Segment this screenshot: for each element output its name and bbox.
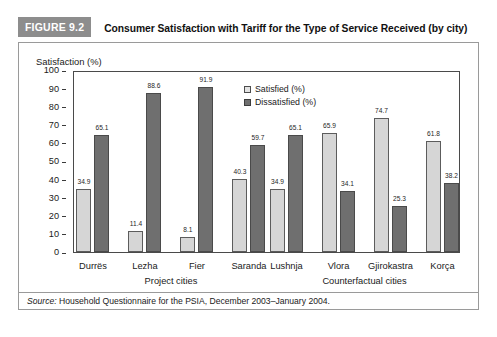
source-label: Source: — [27, 296, 57, 306]
bar-value-label: 59.7 — [252, 135, 265, 142]
bar-value-label: 25.3 — [393, 196, 406, 203]
x-axis-label: Lushnja — [270, 262, 303, 271]
bar-value-label: 34.9 — [78, 179, 91, 186]
bar-value-label: 91.9 — [200, 77, 213, 84]
bar-pair: 74.725.3 — [374, 72, 407, 252]
bar-pair: 8.191.9 — [180, 72, 213, 252]
x-axis-label: Durrës — [79, 262, 107, 271]
y-axis-tick: 50 — [49, 157, 66, 167]
x-axis-group-captions: Project citiesCounterfactual cities — [73, 277, 460, 291]
y-axis: 0102030405060708090100 — [38, 71, 66, 253]
y-axis-tick-label: 100 — [44, 66, 59, 75]
bar-dissatisfied: 65.1 — [288, 135, 303, 252]
y-axis-tick: 30 — [49, 193, 66, 203]
x-axis-label: Korça — [430, 262, 454, 271]
bar-value-label: 40.3 — [234, 169, 247, 176]
bar-value-label: 61.8 — [427, 131, 440, 138]
legend-item-dissatisfied: Dissatisfied (%) — [244, 96, 316, 108]
bar-pair: 34.965.1 — [76, 72, 109, 252]
y-axis-tick-mark-icon — [62, 71, 66, 72]
y-axis-tick-mark-icon — [62, 180, 66, 181]
y-axis-tick-mark-icon — [62, 234, 66, 235]
x-axis-label: Vlora — [328, 262, 350, 271]
bar-value-label: 65.9 — [323, 123, 336, 130]
y-axis-tick-mark-icon — [62, 162, 66, 163]
bar-value-label: 11.4 — [130, 221, 142, 228]
y-axis-tick: 80 — [49, 102, 66, 112]
y-axis-tick-mark-icon — [62, 107, 66, 108]
y-axis-tick: 70 — [49, 121, 66, 131]
y-axis-tick-mark-icon — [62, 198, 66, 199]
bar-satisfied: 11.4 — [128, 231, 143, 252]
figure-number-tag: FIGURE 9.2 — [18, 17, 91, 37]
bar-satisfied: 8.1 — [180, 237, 195, 252]
bar-satisfied: 40.3 — [232, 179, 247, 252]
bar-value-label: 34.9 — [271, 179, 284, 186]
x-axis-group-caption: Project cities — [145, 277, 198, 286]
source-note: Source: Household Questionnaire for the … — [27, 297, 330, 306]
bar-pair: 65.934.1 — [322, 72, 355, 252]
bar-value-label: 38.2 — [445, 173, 458, 180]
bar-group: 34.965.111.488.68.191.940.359.7 — [76, 72, 265, 252]
y-axis-tick-label: 40 — [49, 176, 59, 185]
bar-value-label: 65.1 — [289, 125, 302, 132]
bar-value-label: 74.7 — [375, 108, 388, 115]
bar-dissatisfied: 91.9 — [198, 87, 213, 252]
x-axis-group-caption: Counterfactual cities — [322, 277, 406, 286]
bar-satisfied: 34.9 — [76, 189, 91, 252]
bar-dissatisfied: 65.1 — [94, 135, 109, 252]
bar-dissatisfied: 59.7 — [250, 145, 265, 252]
y-axis-tick-label: 90 — [49, 85, 59, 94]
y-axis-tick-label: 30 — [49, 194, 59, 203]
y-axis-tick: 90 — [49, 84, 66, 94]
bar-satisfied: 74.7 — [374, 118, 389, 252]
bar-dissatisfied: 34.1 — [340, 191, 355, 252]
figure-title: Consumer Satisfaction with Tariff for th… — [91, 17, 467, 39]
x-axis-label: Lezha — [132, 262, 157, 271]
y-axis-tick-label: 70 — [49, 121, 59, 130]
x-axis-label: Gjirokastra — [368, 262, 413, 271]
x-axis-label: Saranda — [231, 262, 266, 271]
y-axis-tick: 100 — [44, 66, 66, 76]
y-axis-tick-mark-icon — [62, 143, 66, 144]
y-axis-tick-label: 10 — [49, 230, 59, 239]
bar-value-label: 88.6 — [148, 83, 161, 90]
x-axis-labels: DurrësLezhaFierSarandaLushnjaVloraGjirok… — [73, 262, 460, 276]
y-axis-tick-mark-icon — [62, 216, 66, 217]
bar-value-label: 34.1 — [341, 181, 354, 188]
bar-satisfied: 65.9 — [322, 133, 337, 252]
y-axis-tick-label: 20 — [49, 212, 59, 221]
y-axis-tick-label: 50 — [49, 157, 59, 166]
y-axis-tick: 60 — [49, 139, 66, 149]
bar-value-label: 8.1 — [183, 227, 192, 234]
figure-header: FIGURE 9.2 Consumer Satisfaction with Ta… — [18, 17, 480, 39]
x-axis-label: Fier — [189, 262, 205, 271]
bar-value-label: 65.1 — [96, 125, 109, 132]
legend-swatch-dissatisfied-icon — [244, 99, 251, 106]
source-divider — [19, 292, 478, 293]
y-axis-tick-mark-icon — [62, 125, 66, 126]
y-axis-tick-mark-icon — [62, 253, 66, 254]
bar-pair: 11.488.6 — [128, 72, 161, 252]
y-axis-tick-label: 0 — [54, 248, 59, 257]
figure-body: Satisfaction (%) Satisfied (%) Dissatisf… — [18, 42, 479, 310]
legend-label-satisfied: Satisfied (%) — [255, 85, 305, 94]
bar-dissatisfied: 88.6 — [146, 93, 161, 252]
bar-pair: 61.838.2 — [426, 72, 459, 252]
y-axis-tick-mark-icon — [62, 89, 66, 90]
y-axis-tick: 10 — [49, 230, 66, 240]
y-axis-tick: 40 — [49, 175, 66, 185]
y-axis-tick-label: 60 — [49, 139, 59, 148]
legend-label-dissatisfied: Dissatisfied (%) — [255, 98, 316, 107]
chart-legend: Satisfied (%) Dissatisfied (%) — [244, 83, 316, 109]
legend-swatch-satisfied-icon — [244, 86, 251, 93]
bar-satisfied: 61.8 — [426, 141, 441, 252]
bar-satisfied: 34.9 — [270, 189, 285, 252]
legend-item-satisfied: Satisfied (%) — [244, 83, 316, 95]
bar-dissatisfied: 38.2 — [444, 183, 459, 252]
y-axis-tick-label: 80 — [49, 103, 59, 112]
y-axis-tick: 0 — [54, 248, 66, 258]
bar-dissatisfied: 25.3 — [392, 206, 407, 252]
source-text: Household Questionnaire for the PSIA, De… — [57, 296, 330, 306]
y-axis-tick: 20 — [49, 212, 66, 222]
